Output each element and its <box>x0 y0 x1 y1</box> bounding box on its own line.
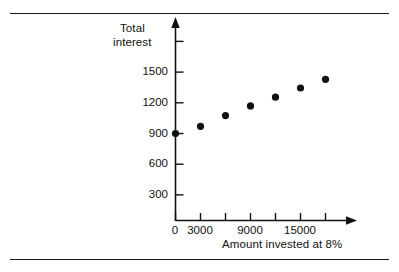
y-axis-title-line1: Total <box>120 22 145 34</box>
x-tick-label-3000: 3000 <box>178 224 222 236</box>
data-point <box>222 112 229 119</box>
y-tick-marks-group <box>176 41 184 195</box>
y-tick-label-300: 300 <box>128 188 168 200</box>
x-axis-title: Amount invested at 8% <box>222 238 342 250</box>
x-axis-arrow-icon <box>346 216 357 224</box>
data-point <box>172 130 179 137</box>
data-point <box>197 123 204 130</box>
y-tick-label-900: 900 <box>128 127 168 139</box>
data-point <box>322 76 329 83</box>
axes-group <box>171 17 357 225</box>
x-tick-label-15000: 15000 <box>278 224 322 236</box>
figure-container: Total interest Amount invested at 8% 150… <box>0 0 399 272</box>
y-axis-title-line2: interest <box>113 36 152 48</box>
x-tick-label-9000: 9000 <box>228 224 272 236</box>
y-axis-arrow-icon <box>171 17 179 28</box>
data-points-group <box>172 76 329 137</box>
data-point <box>297 84 304 91</box>
y-tick-label-1500: 1500 <box>128 65 168 77</box>
y-tick-label-1200: 1200 <box>128 96 168 108</box>
x-tick-marks-group <box>176 213 326 221</box>
data-point <box>272 94 279 101</box>
scatter-plot: Total interest Amount invested at 8% 150… <box>0 0 399 272</box>
y-tick-label-600: 600 <box>128 157 168 169</box>
data-point <box>247 102 254 109</box>
